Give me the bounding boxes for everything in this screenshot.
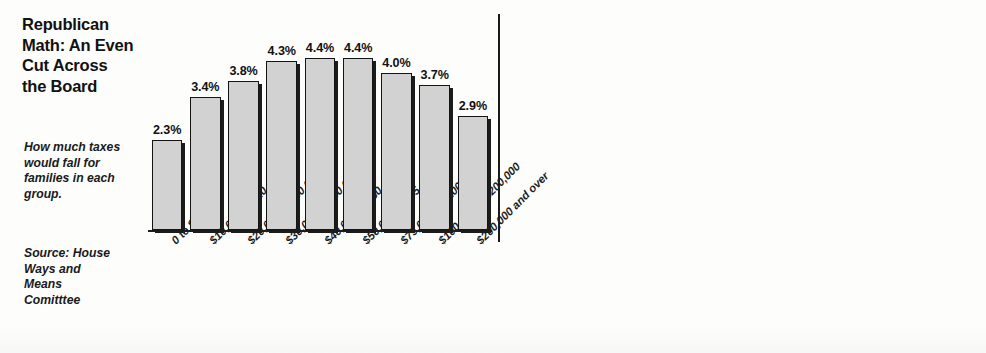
bar-group: 4.3% (266, 61, 297, 230)
bar-value-label: 4.4% (306, 41, 334, 55)
republican-chart-panel: Republican Math: An Even Cut Across the … (0, 0, 500, 353)
bar-group: 4.0% (381, 73, 412, 230)
left-chart-source: Source: House Ways and Means Comitttee (24, 246, 174, 308)
bar (190, 97, 221, 230)
bar-value-label: 2.9% (459, 99, 487, 113)
bar-group: 4.4% (305, 58, 336, 230)
democratic-chart-panel: Democratic Math: A Select Few Get the Be… (500, 0, 986, 353)
bar-value-label: 4.0% (382, 56, 410, 70)
bar-group: 2.3% (152, 140, 183, 230)
bar-group: 3.8% (228, 81, 259, 230)
bar (266, 61, 297, 230)
bar-value-label: 3.7% (421, 68, 449, 82)
bar (228, 81, 259, 230)
bar (381, 73, 412, 230)
bar-group: 2.9% (458, 116, 489, 230)
bar-group: 4.4% (343, 58, 374, 230)
bar (458, 116, 489, 230)
bar-value-label: 4.3% (268, 44, 296, 58)
bar-value-label: 3.8% (229, 64, 257, 78)
bar (152, 140, 183, 230)
bar-value-label: 3.4% (191, 80, 219, 94)
bar (419, 85, 450, 230)
bar-group: 3.7% (419, 85, 450, 230)
bar-value-label: 2.3% (153, 123, 181, 137)
left-plot-area: 2.3%0 to $10,0003.4%$10,000 to $20,0003.… (148, 10, 492, 232)
infographic-page: Republican Math: An Even Cut Across the … (0, 0, 986, 353)
bar (343, 58, 374, 230)
bar-value-label: 4.4% (344, 41, 372, 55)
bar (305, 58, 336, 230)
bar-group: 3.4% (190, 97, 221, 230)
